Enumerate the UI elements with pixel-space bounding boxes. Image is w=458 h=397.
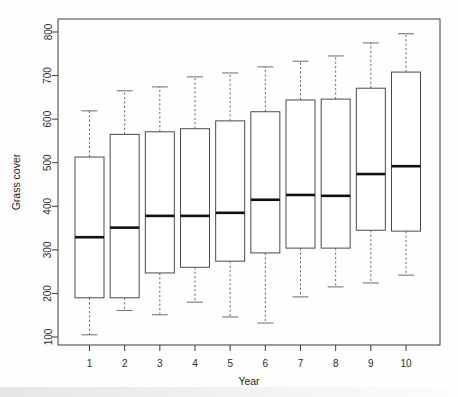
x-tick-label: 10 <box>400 358 412 369</box>
box-rect <box>321 99 350 248</box>
x-tick-label: 2 <box>122 358 128 369</box>
x-tick-label: 9 <box>368 358 374 369</box>
chart-canvas: 10020030040050060070080012345678910YearG… <box>0 0 458 397</box>
x-tick-label: 5 <box>227 358 233 369</box>
y-axis-title: Grass cover <box>10 153 22 210</box>
box-rect <box>110 134 139 297</box>
box-rect <box>216 121 245 261</box>
box-rect <box>181 129 210 268</box>
x-tick-label: 3 <box>157 358 163 369</box>
x-tick-label: 1 <box>87 358 93 369</box>
x-tick-label: 7 <box>298 358 304 369</box>
box-rect <box>286 100 315 248</box>
box-rect <box>251 112 280 253</box>
y-tick-label: 400 <box>43 198 54 215</box>
x-tick-label: 8 <box>333 358 339 369</box>
y-tick-label: 700 <box>43 67 54 84</box>
y-tick-label: 100 <box>43 328 54 345</box>
box-rect <box>75 157 104 298</box>
y-tick-label: 500 <box>43 154 54 171</box>
y-tick-label: 800 <box>43 23 54 40</box>
boxplot-svg: 10020030040050060070080012345678910YearG… <box>0 0 458 397</box>
y-tick-label: 300 <box>43 241 54 258</box>
box-rect <box>392 72 421 231</box>
y-tick-label: 600 <box>43 110 54 127</box>
box-rect <box>145 132 174 273</box>
y-tick-label: 200 <box>43 285 54 302</box>
x-tick-label: 4 <box>192 358 198 369</box>
x-tick-label: 6 <box>263 358 269 369</box>
box-rect <box>356 88 385 230</box>
x-axis-title: Year <box>238 375 260 387</box>
scan-artifact <box>0 387 458 397</box>
